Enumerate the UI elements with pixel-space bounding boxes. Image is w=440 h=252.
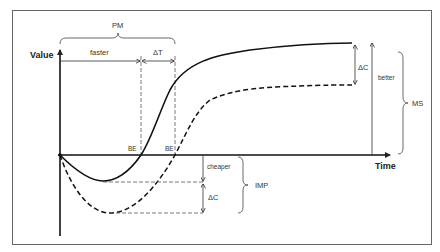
pm-brace — [60, 33, 175, 44]
value-time-diagram: Value Time PM faster ΔT BE BE cheaper ΔC… — [0, 0, 440, 252]
pm-label: PM — [112, 21, 123, 30]
delta-t-label: ΔT — [153, 48, 163, 57]
faster-label: faster — [90, 48, 109, 57]
solid-curve — [60, 43, 352, 181]
y-axis-label: Value — [30, 50, 54, 60]
be-label-dashed: BE — [165, 145, 174, 152]
better-label: better — [378, 74, 395, 81]
x-axis-label: Time — [375, 161, 396, 171]
imp-label: IMP — [255, 181, 268, 190]
ms-brace — [398, 52, 408, 154]
cheaper-label: cheaper — [207, 163, 231, 171]
delta-c-lower-label: ΔC — [208, 193, 219, 202]
delta-c-upper-label: ΔC — [358, 63, 369, 72]
imp-brace — [238, 157, 248, 213]
dashed-curve — [60, 85, 352, 213]
be-label-solid: BE — [128, 145, 137, 152]
diagram-frame — [13, 11, 432, 245]
ms-label: MS — [412, 99, 423, 108]
